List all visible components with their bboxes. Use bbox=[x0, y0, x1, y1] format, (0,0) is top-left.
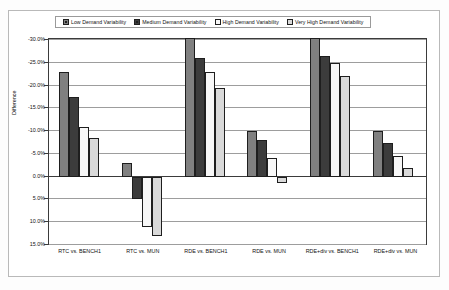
legend-item[interactable]: Medium Demand Variability bbox=[134, 19, 206, 25]
bar[interactable] bbox=[330, 63, 340, 177]
bar-group bbox=[237, 39, 300, 244]
legend-item[interactable]: Low Demand Variability bbox=[63, 19, 126, 25]
bar-group bbox=[363, 39, 426, 244]
bar[interactable] bbox=[393, 156, 403, 177]
legend-swatch-icon bbox=[215, 19, 221, 25]
x-tick-label: RTC vs. MUN bbox=[111, 248, 174, 255]
bar-group bbox=[175, 39, 238, 244]
bar[interactable] bbox=[247, 131, 257, 177]
bar[interactable] bbox=[320, 56, 330, 177]
bar[interactable] bbox=[277, 177, 287, 184]
bar[interactable] bbox=[373, 131, 383, 177]
legend-item-label: Very High Demand Variability bbox=[295, 19, 363, 25]
legend-swatch-icon bbox=[63, 19, 69, 25]
x-axis-tick-labels: RTC vs. BENCH1RTC vs. MUNRDE vs. BENCH1R… bbox=[48, 248, 427, 255]
bar-group bbox=[300, 39, 363, 244]
bar[interactable] bbox=[215, 88, 225, 177]
bar-group bbox=[112, 39, 175, 244]
bar[interactable] bbox=[79, 127, 89, 177]
bar[interactable] bbox=[340, 76, 350, 176]
bar-group bbox=[49, 39, 112, 244]
y-axis-tick-marks bbox=[0, 38, 48, 245]
x-tick-label: RDE+div vs. MUN bbox=[364, 248, 427, 255]
legend-item-label: High Demand Variability bbox=[223, 19, 279, 25]
bar[interactable] bbox=[89, 138, 99, 177]
x-tick-label: RDE vs. MUN bbox=[238, 248, 301, 255]
bar[interactable] bbox=[122, 163, 132, 177]
legend-swatch-icon bbox=[287, 19, 293, 25]
bar[interactable] bbox=[132, 177, 142, 200]
bar[interactable] bbox=[195, 58, 205, 176]
bar[interactable] bbox=[257, 140, 267, 176]
bar[interactable] bbox=[205, 72, 215, 177]
legend-item-label: Low Demand Variability bbox=[71, 19, 126, 25]
bar[interactable] bbox=[185, 38, 195, 177]
plot-area bbox=[48, 38, 427, 245]
bar[interactable] bbox=[267, 158, 277, 176]
bar[interactable] bbox=[383, 143, 393, 177]
legend-item[interactable]: Very High Demand Variability bbox=[287, 19, 363, 25]
bar[interactable] bbox=[142, 177, 152, 227]
x-tick-label: RDE vs. BENCH1 bbox=[174, 248, 237, 255]
gridline bbox=[49, 244, 426, 245]
chart-legend: Low Demand VariabilityMedium Demand Vari… bbox=[55, 16, 371, 28]
bar-groups bbox=[49, 39, 426, 244]
x-tick-label: RTC vs. BENCH1 bbox=[48, 248, 111, 255]
bar[interactable] bbox=[310, 38, 320, 177]
bar[interactable] bbox=[59, 72, 69, 177]
chart-screenshot: Low Demand VariabilityMedium Demand Vari… bbox=[0, 0, 449, 290]
x-tick-label: RDE+div vs. BENCH1 bbox=[301, 248, 364, 255]
legend-item[interactable]: High Demand Variability bbox=[215, 19, 279, 25]
bar[interactable] bbox=[403, 168, 413, 177]
bar[interactable] bbox=[152, 177, 162, 236]
legend-swatch-icon bbox=[134, 19, 140, 25]
legend-item-label: Medium Demand Variability bbox=[142, 19, 206, 25]
bar[interactable] bbox=[69, 97, 79, 177]
